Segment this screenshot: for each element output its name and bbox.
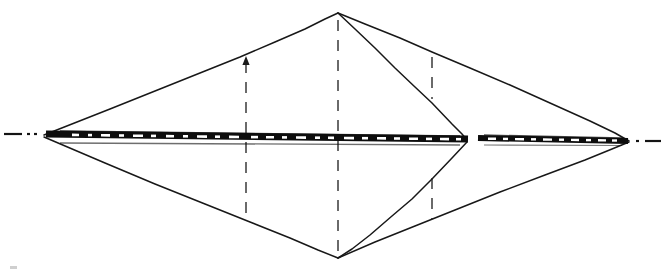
band-right-feather-bottom: [484, 145, 622, 146]
upper-right-steep-edge: [338, 13, 467, 140]
lower-left-edge: [44, 137, 338, 258]
lower-right-steep-edge: [338, 142, 467, 258]
scan-fleck-bottom-left: [10, 266, 17, 269]
figure-root: [0, 0, 663, 274]
lower-right-long-edge: [338, 142, 629, 258]
upper-left-edge: [44, 13, 338, 135]
ordinate-1-up-arrow-icon: [242, 56, 249, 65]
band-left-feather-bottom: [60, 143, 460, 145]
diagram-canvas: [0, 0, 663, 274]
horizontal-ink-band-right: [478, 135, 628, 146]
horizontal-ink-band-left: [46, 131, 468, 145]
upper-right-long-edge: [338, 13, 629, 141]
